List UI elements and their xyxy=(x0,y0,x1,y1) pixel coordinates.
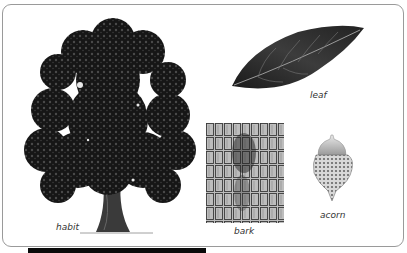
tree-habit-illustration xyxy=(18,10,198,238)
leaf-illustration xyxy=(228,20,368,100)
leaf-label: leaf xyxy=(310,90,327,100)
bark-illustration xyxy=(206,123,284,223)
acorn-label: acorn xyxy=(320,210,345,220)
acorn-illustration xyxy=(310,133,356,203)
habit-label: habit xyxy=(56,222,79,232)
bottom-bar xyxy=(28,248,206,253)
bark-label: bark xyxy=(234,226,254,236)
